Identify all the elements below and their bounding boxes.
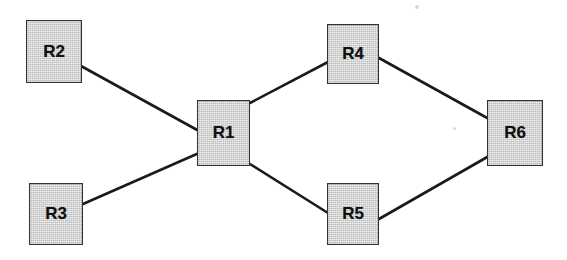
edge-r1-r5 <box>250 164 328 213</box>
node-label-r4: R4 <box>342 44 363 64</box>
node-label-r1: R1 <box>213 123 234 143</box>
node-label-r2: R2 <box>43 42 64 62</box>
node-r4[interactable]: R4 <box>327 24 379 84</box>
node-label-r5: R5 <box>342 204 363 224</box>
edge-r3-r1 <box>83 153 199 204</box>
scan-speck <box>453 127 456 130</box>
edge-r4-r6 <box>379 58 489 119</box>
edge-r1-r4 <box>250 62 328 103</box>
node-r2[interactable]: R2 <box>26 20 82 83</box>
node-r3[interactable]: R3 <box>29 183 83 245</box>
scan-speck <box>415 5 419 9</box>
edge-layer <box>0 0 567 260</box>
node-r6[interactable]: R6 <box>487 100 543 166</box>
node-r1[interactable]: R1 <box>197 100 250 166</box>
node-r5[interactable]: R5 <box>327 183 379 245</box>
node-label-r6: R6 <box>504 123 525 143</box>
edge-r2-r1 <box>81 66 199 131</box>
node-label-r3: R3 <box>45 204 66 224</box>
edge-r5-r6 <box>379 156 489 219</box>
network-diagram-canvas: R2R3R1R4R5R6 <box>0 0 567 260</box>
